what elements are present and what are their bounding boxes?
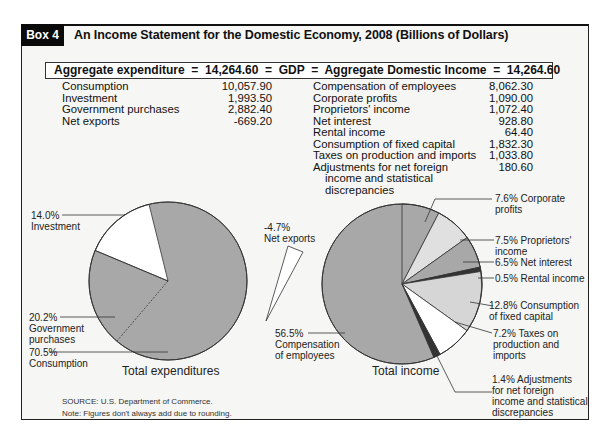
label-net-interest: 6.5% Net interest — [495, 257, 572, 268]
label-consumption: 70.5% Consumption — [29, 347, 88, 369]
label-name: Net exports — [264, 233, 315, 244]
label-line: income and statistical — [492, 396, 588, 407]
label-taxes: 7.2% Taxes on production and imports — [493, 328, 559, 361]
label-corporate-profits: 7.6% Corporate profits — [495, 193, 565, 215]
label-line: discrepancies — [492, 407, 588, 418]
label-name: Consumption — [29, 358, 88, 369]
label-line: of employees — [275, 350, 339, 361]
label-line: Compensation — [275, 339, 339, 350]
label-line: 0.5% Rental income — [495, 273, 585, 284]
label-proprietors-income: 7.5% Proprietors' income — [495, 235, 571, 257]
label-compensation: 56.5% Compensation of employees — [275, 328, 339, 361]
label-name: purchases — [29, 334, 84, 345]
label-line: production and — [493, 339, 559, 350]
income-pie — [322, 204, 482, 364]
label-line: 1.4% Adjustments — [492, 374, 588, 385]
net-exports-wedge — [266, 246, 303, 321]
label-net-exports: -4.7% Net exports — [264, 222, 315, 244]
source-note: SOURCE: U.S. Department of Commerce. — [62, 396, 213, 408]
label-adjustments: 1.4% Adjustments for net foreign income … — [492, 374, 588, 418]
label-line: of fixed capital — [489, 311, 579, 322]
label-line: imports — [493, 350, 559, 361]
label-percent: 70.5% — [29, 347, 88, 358]
label-government: 20.2% Government purchases — [29, 312, 84, 345]
label-line: for net foreign — [492, 385, 588, 396]
label-name: Investment — [31, 221, 80, 232]
caption-total-income: Total income — [372, 364, 439, 378]
label-line: profits — [495, 204, 565, 215]
label-name: Government — [29, 323, 84, 334]
caption-total-expenditures: Total expenditures — [122, 364, 219, 378]
label-percent: -4.7% — [264, 222, 315, 233]
label-line: 7.5% Proprietors' — [495, 235, 571, 246]
label-percent: 14.0% — [31, 210, 80, 221]
label-line: 6.5% Net interest — [495, 257, 572, 268]
label-line: 7.2% Taxes on — [493, 328, 559, 339]
label-percent: 20.2% — [29, 312, 84, 323]
label-investment: 14.0% Investment — [31, 210, 80, 232]
label-consumption-fixed-capital: 12.8% Consumption of fixed capital — [489, 300, 579, 322]
label-line: 56.5% — [275, 328, 339, 339]
label-line: 7.6% Corporate — [495, 193, 565, 204]
expenditures-pie — [89, 202, 247, 360]
label-rental-income: 0.5% Rental income — [495, 273, 585, 284]
label-line: income — [495, 246, 571, 257]
label-line: 12.8% Consumption — [489, 300, 579, 311]
rounding-note: Note: Figures don't always add due to ro… — [62, 408, 232, 420]
